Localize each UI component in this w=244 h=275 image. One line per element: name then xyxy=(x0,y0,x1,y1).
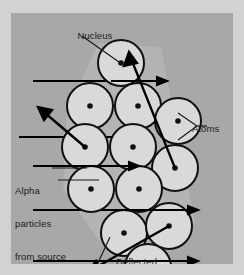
arrow-head xyxy=(188,206,198,214)
atom xyxy=(68,166,114,212)
atoms-group xyxy=(62,40,201,264)
nucleus-dot xyxy=(88,186,94,192)
atom xyxy=(67,83,113,129)
label-nucleus-text: Nucleus xyxy=(77,30,112,41)
nucleus-dot xyxy=(118,60,124,66)
label-atoms-text: Atoms xyxy=(192,123,219,134)
label-alpha-particles: Alpha particles from source xyxy=(15,163,66,264)
label-alpha-line-3: from source xyxy=(15,251,66,262)
nucleus-dot xyxy=(87,103,93,109)
label-atoms: Atoms xyxy=(176,112,219,145)
arrow-head xyxy=(188,257,198,264)
nucleus-dot xyxy=(136,186,142,192)
diagram-panel: Nucleus Atoms Alpha particles from sourc… xyxy=(11,13,233,264)
nucleus-dot xyxy=(135,103,141,109)
label-alpha-line-1: Alpha xyxy=(15,185,66,196)
label-alpha-line-2: particles xyxy=(15,218,66,229)
label-deflected-particle: Deflected alpha particle xyxy=(116,234,174,264)
label-nucleus: Nucleus xyxy=(61,19,112,52)
atom xyxy=(116,166,162,212)
figure-page: Nucleus Atoms Alpha particles from sourc… xyxy=(0,0,244,275)
nucleus-dot xyxy=(130,144,136,150)
label-deflected-line-1: Deflected xyxy=(116,256,174,264)
